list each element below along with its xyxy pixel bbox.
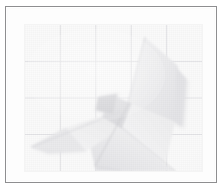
photo-frame xyxy=(5,6,217,183)
origami-scene xyxy=(25,25,202,171)
highlight-wash xyxy=(25,29,165,121)
photograph xyxy=(25,25,202,171)
photo-mat xyxy=(8,9,214,180)
